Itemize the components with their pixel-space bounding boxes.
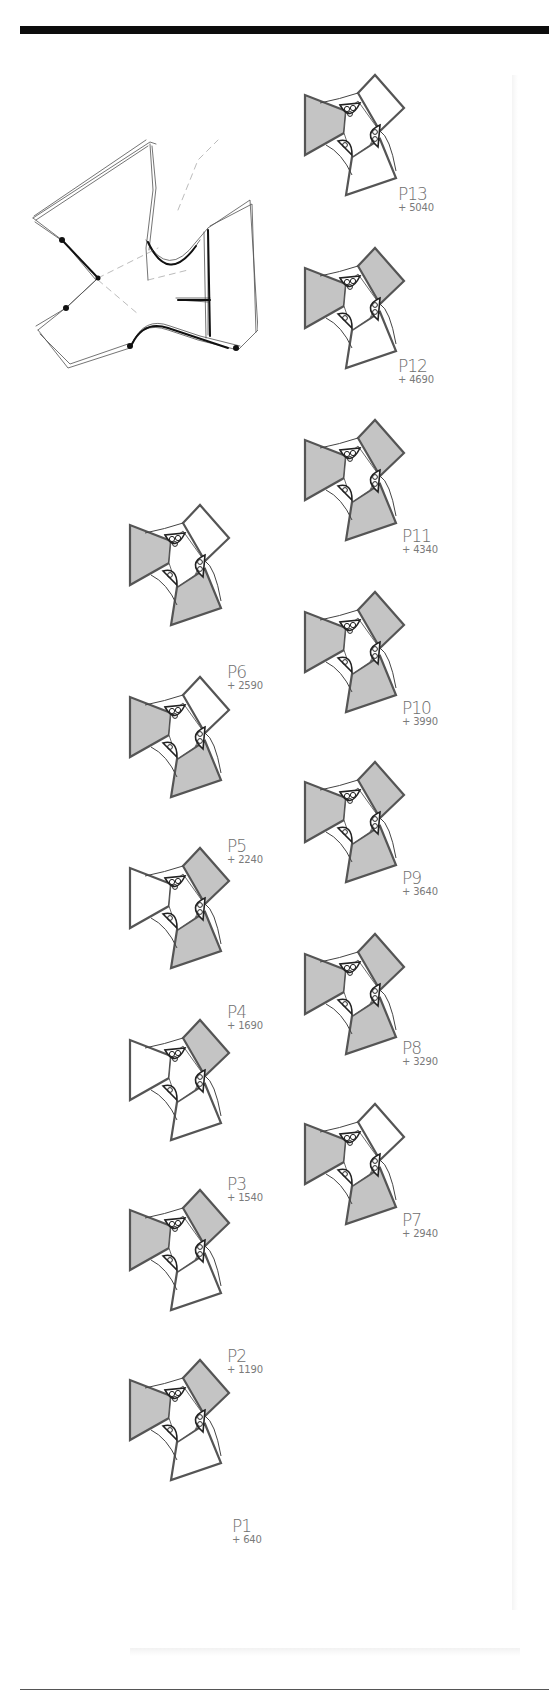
level-code: P9: [402, 870, 438, 887]
floor-plan-drawing: [125, 505, 235, 635]
floor-plan-drawing: [125, 1020, 235, 1150]
floor-plan-drawing: [125, 1190, 235, 1320]
bottom-rule: [20, 1689, 549, 1690]
floor-plan-p10: [300, 592, 410, 722]
level-code: P12: [398, 358, 434, 375]
level-code: P11: [402, 528, 438, 545]
floor-plan-p3: [125, 1020, 235, 1150]
floor-plan-p11: [300, 420, 410, 550]
level-elevation: + 2940: [402, 1229, 438, 1239]
level-code: P7: [402, 1212, 438, 1229]
floor-plan-p8: [300, 934, 410, 1064]
level-label-p7: P7 + 2940: [402, 1212, 438, 1239]
concept-sketch: [28, 130, 258, 370]
level-code: P4: [227, 1004, 263, 1021]
floor-plan-p2: [125, 1190, 235, 1320]
level-code: P8: [402, 1040, 438, 1057]
level-elevation: + 3640: [402, 887, 438, 897]
level-code: P13: [398, 186, 434, 203]
floor-plan-drawing: [300, 75, 410, 205]
floor-plan-p5: [125, 677, 235, 807]
level-elevation: + 3990: [402, 717, 438, 727]
floor-plan-p7: [300, 1104, 410, 1234]
level-label-p1: P1 + 640: [232, 1518, 262, 1545]
floor-plan-p13: [300, 75, 410, 205]
floor-plan-drawing: [125, 677, 235, 807]
floor-plan-drawing: [300, 762, 410, 892]
level-label-p8: P8 + 3290: [402, 1040, 438, 1067]
level-label-p9: P9 + 3640: [402, 870, 438, 897]
level-elevation: + 4690: [398, 375, 434, 385]
level-elevation: + 640: [232, 1535, 262, 1545]
level-label-p12: P12 + 4690: [398, 358, 434, 385]
floor-plan-p9: [300, 762, 410, 892]
level-elevation: + 4340: [402, 545, 438, 555]
floor-plan-p4: [125, 848, 235, 978]
level-label-p10: P10 + 3990: [402, 700, 438, 727]
level-label-p13: P13 + 5040: [398, 186, 434, 213]
floor-plan-drawing: [125, 848, 235, 978]
top-rule: [20, 26, 549, 34]
level-elevation: + 3290: [402, 1057, 438, 1067]
floor-plan-drawing: [300, 592, 410, 722]
floor-plan-p1: [125, 1360, 235, 1490]
level-code: P1: [232, 1518, 262, 1535]
level-label-p11: P11 + 4340: [402, 528, 438, 555]
floor-plan-drawing: [300, 420, 410, 550]
floor-plan-drawing: [300, 1104, 410, 1234]
level-code: P10: [402, 700, 438, 717]
paper-edge-shadow-bottom: [130, 1648, 520, 1656]
floor-plan-p6: [125, 505, 235, 635]
paper-edge-shadow: [512, 75, 518, 1610]
level-elevation: + 5040: [398, 203, 434, 213]
floor-plan-drawing: [125, 1360, 235, 1490]
floor-plan-p12: [300, 248, 410, 378]
floor-plan-drawing: [300, 934, 410, 1064]
floor-plan-drawing: [300, 248, 410, 378]
